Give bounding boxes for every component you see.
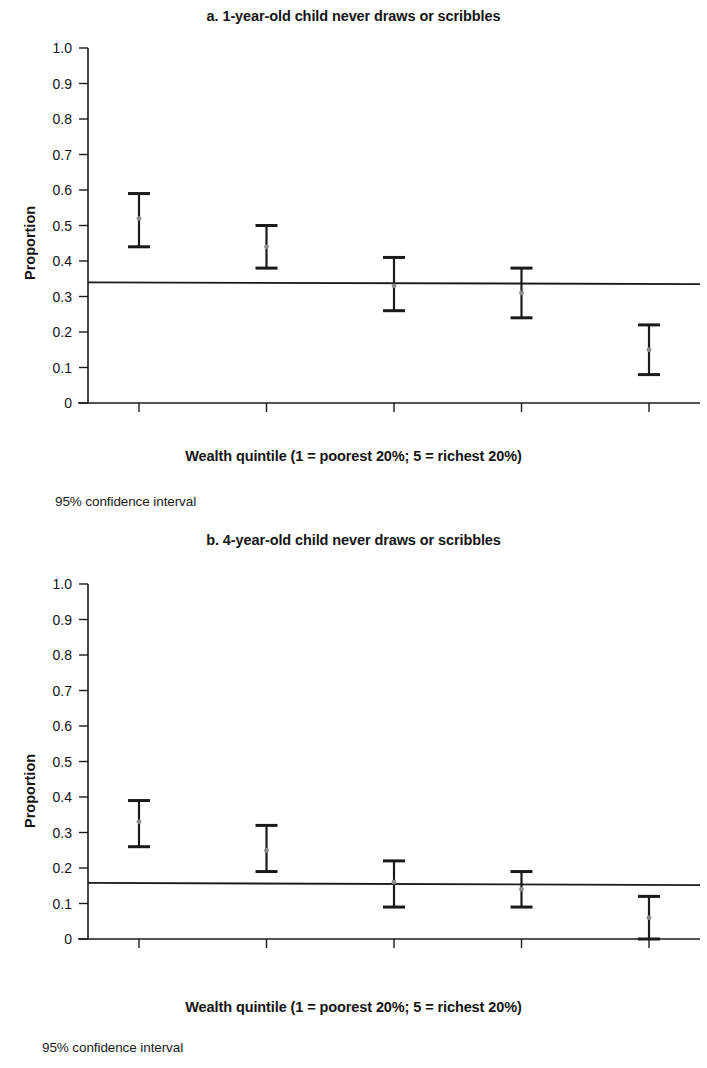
y-axis-tick-label: 0.7 — [53, 147, 73, 163]
y-axis-tick-label: 0.6 — [53, 182, 73, 198]
x-axis-tick-label: 5 — [645, 419, 653, 420]
y-axis-tick-label: 0.8 — [53, 647, 73, 663]
data-point-marker — [519, 291, 524, 296]
data-point-marker — [519, 887, 524, 892]
y-axis-tick-label: 0 — [64, 395, 72, 411]
y-axis-tick-label: 0.2 — [53, 324, 73, 340]
x-axis-tick-label: 2 — [263, 955, 271, 956]
y-axis-tick-label: 0.9 — [53, 76, 73, 92]
panel-b-footnote: 95% confidence interval — [42, 1040, 183, 1055]
y-axis-tick-label: 0.4 — [53, 789, 73, 805]
x-axis-tick-label: 5 — [645, 955, 653, 956]
data-point-marker — [647, 347, 652, 352]
data-point-marker — [137, 216, 142, 221]
y-axis-tick-label: 0.8 — [53, 111, 73, 127]
y-axis-tick-label: 0.3 — [53, 825, 73, 841]
panel-b-title: b. 4-year-old child never draws or scrib… — [0, 532, 707, 548]
y-axis-tick-label: 0.2 — [53, 860, 73, 876]
y-axis-tick-label: 0.4 — [53, 253, 73, 269]
error-bar — [638, 325, 660, 375]
error-bar — [511, 872, 533, 908]
y-axis-tick-label: 0.1 — [53, 896, 73, 912]
data-point-marker — [264, 848, 269, 853]
y-axis-tick-label: 0.1 — [53, 360, 73, 376]
y-axis-tick-label: 0.3 — [53, 289, 73, 305]
data-point-marker — [392, 283, 397, 288]
panel-a-plot-svg: 00.10.20.30.40.50.60.70.80.91.012345 — [0, 30, 707, 420]
panel-a-footnote: 95% confidence interval — [55, 494, 196, 509]
panel-a-x-axis-title: Wealth quintile (1 = poorest 20%; 5 = ri… — [0, 448, 707, 464]
panel-b-plot: 00.10.20.30.40.50.60.70.80.91.012345 — [0, 566, 707, 956]
error-bar — [128, 801, 150, 847]
x-axis-tick-label: 3 — [390, 419, 398, 420]
x-axis-tick-label: 2 — [263, 419, 271, 420]
error-bar — [256, 825, 278, 871]
data-point-marker — [137, 819, 142, 824]
x-axis-tick-label: 4 — [518, 419, 526, 420]
y-axis-tick-label: 0.7 — [53, 683, 73, 699]
error-bar — [638, 896, 660, 939]
data-point-marker — [264, 244, 269, 249]
y-axis-tick-label: 0.9 — [53, 612, 73, 628]
error-bar — [511, 268, 533, 318]
data-point-marker — [647, 915, 652, 920]
x-axis-tick-label: 4 — [518, 955, 526, 956]
x-axis-tick-label: 3 — [390, 955, 398, 956]
y-axis-tick-label: 0.5 — [53, 218, 73, 234]
panel-b-y-axis-title: Proportion — [22, 754, 38, 828]
x-axis-tick-label: 1 — [135, 955, 143, 956]
y-axis-tick-label: 1.0 — [53, 40, 73, 56]
error-bar — [128, 194, 150, 247]
y-axis-tick-label: 1.0 — [53, 576, 73, 592]
x-axis-tick-label: 1 — [135, 419, 143, 420]
panel-a-plot: 00.10.20.30.40.50.60.70.80.91.012345 — [0, 30, 707, 420]
panel-b-x-axis-title: Wealth quintile (1 = poorest 20%; 5 = ri… — [0, 999, 707, 1015]
panel-b-plot-svg: 00.10.20.30.40.50.60.70.80.91.012345 — [0, 566, 707, 956]
panel-a-title: a. 1-year-old child never draws or scrib… — [0, 8, 707, 24]
y-axis-tick-label: 0 — [64, 931, 72, 947]
y-axis-tick-label: 0.5 — [53, 754, 73, 770]
panel-a: a. 1-year-old child never draws or scrib… — [0, 0, 707, 528]
panel-b: b. 4-year-old child never draws or scrib… — [0, 528, 707, 1068]
y-axis-tick-label: 0.6 — [53, 718, 73, 734]
error-bar — [256, 226, 278, 269]
data-point-marker — [392, 880, 397, 885]
